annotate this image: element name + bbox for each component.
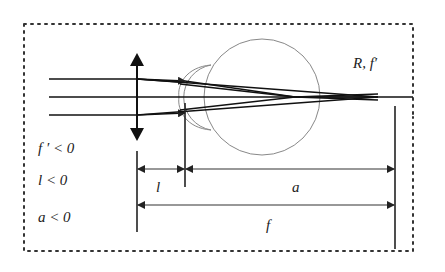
dimension-arrows xyxy=(138,169,394,205)
condition-l: l < 0 xyxy=(38,172,68,188)
dimension-l-label: l xyxy=(156,179,160,195)
condition-a: a < 0 xyxy=(38,209,71,225)
eye-label: R, f′ xyxy=(352,55,378,71)
dimension-a-label: a xyxy=(292,179,300,195)
optics-diagram: R, f′ f ′ < 0 l < 0 a < 0 l a f xyxy=(0,0,445,272)
condition-f: f ′ < 0 xyxy=(38,140,75,156)
dimension-f-label: f xyxy=(266,217,272,233)
